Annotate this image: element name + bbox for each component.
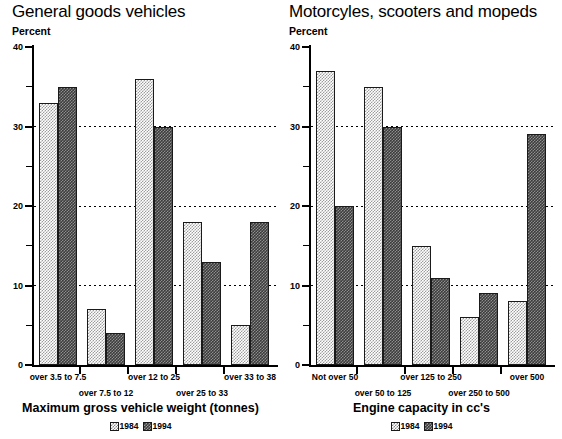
bar-1994-not-over-50	[335, 206, 354, 365]
bar-1994-over-125-to-250	[431, 278, 450, 365]
bar-1984-not-over-50	[316, 71, 335, 365]
x-category-label: over 7.5 to 12	[79, 388, 133, 398]
legend-label-1994: 1994	[153, 421, 172, 431]
bar-1994-over-500	[527, 134, 546, 365]
gridline-30	[311, 126, 553, 127]
y-tick-label-20: 20	[290, 202, 300, 211]
legend-swatch-1984-icon	[391, 422, 400, 431]
bar-1984-over-7-5-to-12	[87, 309, 106, 365]
y-tick-label-0: 0	[295, 361, 300, 370]
bar-1984-over-50-to-125	[364, 87, 383, 365]
bar-1984-over-250-to-500	[460, 317, 479, 365]
dual-bar-chart-figure: General goods vehicles Percent 010203040…	[0, 0, 562, 439]
bar-1984-over-3-5-to-7-5	[39, 103, 58, 365]
x-category-label: over 125 to 250	[400, 372, 461, 382]
legend-label-1994: 1994	[434, 421, 453, 431]
y-tick-40	[25, 46, 32, 48]
y-tick-0	[302, 364, 309, 366]
legend-swatch-1984-icon	[110, 422, 119, 431]
y-tick-10	[302, 285, 309, 287]
x-tick-4	[500, 366, 502, 374]
chart-legend: 1984 1994	[281, 421, 562, 431]
y-tick-label-10: 10	[290, 282, 300, 291]
legend-swatch-1994-icon	[143, 422, 152, 431]
bar-1994-over-50-to-125	[383, 127, 402, 366]
x-category-label: Not over 50	[312, 372, 358, 382]
bar-1984-over-12-to-25	[135, 79, 154, 365]
x-category-label: over 500	[510, 372, 545, 382]
y-tick-label-30: 30	[13, 123, 23, 132]
y-axis-line	[309, 45, 311, 366]
y-tick-label-40: 40	[290, 43, 300, 52]
plot-area: 010203040	[309, 47, 549, 365]
legend-label-1984: 1984	[120, 421, 139, 431]
bar-1984-over-25-to-33	[183, 222, 202, 365]
y-tick-40	[302, 46, 309, 48]
bar-1984-over-500	[508, 301, 527, 365]
chart-legend: 1984 1994	[0, 421, 281, 431]
bar-1994-over-3-5-to-7-5	[58, 87, 77, 365]
x-axis-title: Engine capacity in cc's	[281, 401, 562, 416]
y-tick-label-30: 30	[290, 123, 300, 132]
chart-panel-general-goods-vehicles: General goods vehicles Percent 010203040…	[0, 0, 281, 439]
legend-swatch-1994-icon	[424, 422, 433, 431]
y-tick-30	[302, 126, 309, 128]
x-category-label: over 250 to 500	[448, 388, 509, 398]
y-tick-10	[25, 285, 32, 287]
y-tick-20	[302, 205, 309, 207]
bar-1984-over-125-to-250	[412, 246, 431, 365]
y-tick-0	[25, 364, 32, 366]
bar-1994-over-12-to-25	[154, 127, 173, 366]
bar-1984-over-33-to-38	[231, 325, 250, 365]
legend-item-1984: 1984	[110, 421, 139, 431]
legend-item-1994: 1994	[424, 421, 453, 431]
y-tick-20	[25, 205, 32, 207]
y-tick-label-10: 10	[13, 282, 23, 291]
legend-label-1984: 1984	[401, 421, 420, 431]
y-tick-label-0: 0	[18, 361, 23, 370]
x-category-label: over 50 to 125	[355, 388, 412, 398]
x-axis-title: Maximum gross vehicle weight (tonnes)	[0, 401, 281, 416]
x-category-label: over 25 to 33	[176, 388, 228, 398]
y-tick-30	[25, 126, 32, 128]
y-axis-unit-label: Percent	[12, 25, 51, 37]
bar-1994-over-33-to-38	[250, 222, 269, 365]
x-axis-line	[309, 365, 555, 367]
bar-1994-over-250-to-500	[479, 293, 498, 365]
x-axis-line	[32, 365, 278, 367]
y-axis-line	[32, 45, 34, 366]
chart-title: General goods vehicles	[12, 2, 185, 22]
x-category-label: over 12 to 25	[128, 372, 180, 382]
bar-1994-over-7-5-to-12	[106, 333, 125, 365]
x-category-label: over 33 to 38	[224, 372, 276, 382]
bar-1994-over-25-to-33	[202, 262, 221, 365]
legend-item-1984: 1984	[391, 421, 420, 431]
plot-area: 010203040	[32, 47, 272, 365]
legend-item-1994: 1994	[143, 421, 172, 431]
y-tick-label-20: 20	[13, 202, 23, 211]
y-tick-label-40: 40	[13, 43, 23, 52]
y-axis-unit-label: Percent	[289, 25, 328, 37]
chart-panel-motorcycles-scooters-mopeds: Motorcyles, scooters and mopeds Percent …	[281, 0, 562, 439]
chart-title: Motorcyles, scooters and mopeds	[289, 2, 537, 22]
x-category-label: over 3.5 to 7.5	[30, 372, 87, 382]
